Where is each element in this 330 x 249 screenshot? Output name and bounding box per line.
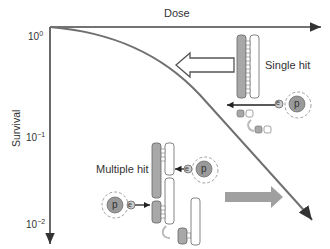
multiple-hit-dna-icon (102, 143, 218, 245)
y-tick-10e0: 100 (28, 30, 43, 42)
electron-label-single: e (276, 99, 280, 106)
y-tick-10e-1: 10−1 (26, 131, 45, 143)
survival-curve-diagram: Dose Survival 100 10−1 10−2 Single hit M… (0, 0, 330, 249)
diagram-graphics (0, 0, 330, 249)
particle-label-multi-left: p (112, 200, 118, 210)
particle-label-single: p (294, 99, 300, 109)
single-hit-dna-icon (227, 35, 311, 133)
hollow-left-arrow-icon (176, 53, 234, 77)
y-axis-label: Survival (10, 110, 22, 147)
electron-label-multi-left: e (128, 201, 132, 208)
single-hit-label: Single hit (265, 60, 310, 71)
y-tick-10e-2: 10−2 (26, 218, 45, 230)
x-axis-label: Dose (164, 8, 190, 19)
electron-label-multi-right: e (185, 165, 189, 172)
solid-right-arrow-icon (225, 186, 283, 208)
multiple-hit-label: Multiple hit (96, 164, 149, 175)
particle-label-multi-right: p (201, 164, 207, 174)
